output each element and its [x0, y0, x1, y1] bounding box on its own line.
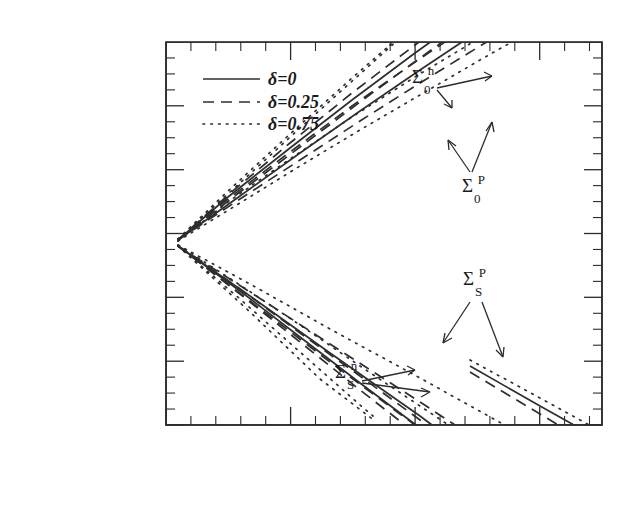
annotation-sigma-s-p-subscript: S — [475, 284, 482, 299]
annotation-sigma-s-n-subscript: S — [347, 377, 354, 392]
mask-left — [0, 0, 165, 523]
annotation-sigma-0-p-subscript: 0 — [474, 191, 481, 206]
sigma-vs-density-plot: 600 400 200 0 -200 -400 -600 0.0 0.1 0.2… — [0, 0, 632, 523]
annotation-sigma-0-n-subscript: 0 — [424, 82, 431, 97]
figure-container: 600 400 200 0 -200 -400 -600 0.0 0.1 0.2… — [0, 0, 632, 523]
legend-label-delta-025: δ=0.25 — [268, 92, 319, 112]
legend-label-delta-0: δ=0 — [268, 69, 296, 89]
legend-label-delta-075: δ=0.75 — [268, 114, 319, 134]
mask-right — [603, 0, 632, 523]
